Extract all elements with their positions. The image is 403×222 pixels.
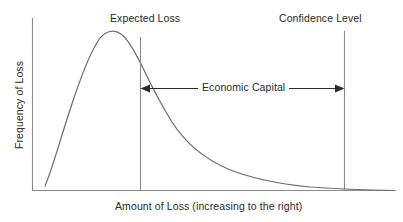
distribution-curve-group bbox=[45, 31, 395, 190]
y-axis-label: Frequency of Loss bbox=[13, 45, 25, 165]
arrow-head-right-icon bbox=[335, 85, 345, 93]
arrow-head-left-icon bbox=[141, 85, 151, 93]
loss-distribution-curve bbox=[45, 31, 395, 190]
confidence-level-label: Confidence Level bbox=[279, 12, 362, 24]
marker-lines-group bbox=[141, 31, 345, 191]
chart-canvas bbox=[0, 0, 403, 222]
economic-capital-label: Economic Capital bbox=[198, 81, 289, 93]
expected-loss-label: Expected Loss bbox=[110, 12, 180, 24]
axes-group bbox=[32, 18, 395, 191]
x-axis-label: Amount of Loss (increasing to the right) bbox=[115, 200, 302, 212]
loss-distribution-figure: Expected Loss Confidence Level Economic … bbox=[0, 0, 403, 222]
